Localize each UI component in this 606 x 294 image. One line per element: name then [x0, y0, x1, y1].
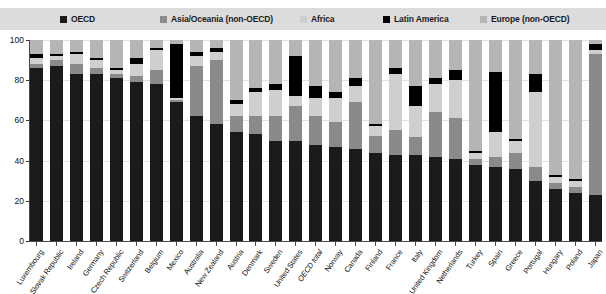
y-tick-label: 60 — [15, 115, 24, 125]
bar-segment — [449, 118, 462, 158]
bar-greece[interactable] — [509, 40, 522, 241]
bar-segment — [289, 96, 302, 106]
bar-segment — [70, 54, 83, 64]
bar-segment — [409, 106, 422, 136]
bar-segment — [329, 147, 342, 241]
bar-segment — [249, 116, 262, 134]
bar-segment — [289, 106, 302, 140]
bar-netherlands[interactable] — [449, 40, 462, 241]
bar-australia[interactable] — [190, 40, 203, 241]
x-tick-mark — [150, 242, 163, 246]
x-label-slot: Japan — [589, 247, 602, 294]
bar-segment — [309, 116, 322, 144]
y-tick-label: 100 — [10, 35, 24, 45]
bar-belgium[interactable] — [150, 40, 163, 241]
bar-segment — [190, 40, 203, 52]
bar-segment — [429, 112, 442, 156]
bar-ireland[interactable] — [70, 40, 83, 241]
bar-mexico[interactable] — [170, 40, 183, 241]
bar-segment — [150, 40, 163, 48]
bar-segment — [449, 70, 462, 80]
bar-segment — [349, 86, 362, 102]
legend-label: Latin America — [394, 14, 449, 24]
x-tick-mark — [110, 242, 123, 246]
bar-segment — [369, 40, 382, 124]
bar-segment — [130, 40, 143, 58]
plot-area — [30, 40, 602, 241]
bar-segment — [269, 40, 282, 84]
x-tick-mark — [210, 242, 223, 246]
x-axis-label: Norway — [323, 248, 345, 274]
bar-germany[interactable] — [90, 40, 103, 241]
x-label-slot: Belgium — [150, 247, 163, 294]
bar-segment — [150, 84, 163, 241]
bar-segment — [369, 126, 382, 136]
bar-france[interactable] — [389, 40, 402, 241]
bar-hungary[interactable] — [549, 40, 562, 241]
x-tick-mark — [449, 242, 462, 246]
x-tick-mark — [329, 242, 342, 246]
bar-italy[interactable] — [409, 40, 422, 241]
bar-turkey[interactable] — [469, 40, 482, 241]
bar-segment — [509, 169, 522, 241]
bar-sweden[interactable] — [269, 40, 282, 241]
bar-united-states[interactable] — [289, 40, 302, 241]
bar-segment — [30, 68, 43, 241]
bar-canada[interactable] — [349, 40, 362, 241]
bar-portugal[interactable] — [529, 40, 542, 241]
bar-segment — [289, 141, 302, 242]
x-tick-mark — [549, 242, 562, 246]
x-label-slot: Slovak Republic — [50, 247, 63, 294]
x-label-slot: Poland — [569, 247, 582, 294]
bar-segment — [489, 157, 502, 167]
bar-segment — [489, 132, 502, 156]
bar-norway[interactable] — [329, 40, 342, 241]
x-tick-mark — [429, 242, 442, 246]
bar-new-zealand[interactable] — [210, 40, 223, 241]
bar-segment — [409, 86, 422, 106]
legend-label: OECD — [71, 14, 95, 24]
x-axis-ticks — [30, 242, 602, 246]
bar-austria[interactable] — [230, 40, 243, 241]
bar-segment — [549, 189, 562, 241]
bar-segment — [230, 40, 243, 100]
bar-segment — [429, 157, 442, 241]
x-tick-mark — [289, 242, 302, 246]
bar-oecd-total[interactable] — [309, 40, 322, 241]
x-axis-label: Japan — [585, 248, 604, 270]
x-tick-mark — [389, 242, 402, 246]
bar-poland[interactable] — [569, 40, 582, 241]
legend-item-2: Africa — [300, 14, 335, 24]
x-tick-mark — [489, 242, 502, 246]
bar-segment — [409, 40, 422, 86]
bar-segment — [269, 141, 282, 242]
bar-segment — [269, 116, 282, 140]
bar-denmark[interactable] — [249, 40, 262, 241]
bar-segment — [509, 141, 522, 153]
bar-segment — [529, 167, 542, 181]
bar-series-group — [30, 40, 602, 241]
bar-luxembourg[interactable] — [30, 40, 43, 241]
x-tick-mark — [230, 242, 243, 246]
bar-segment — [130, 82, 143, 241]
bar-slovak-republic[interactable] — [50, 40, 63, 241]
bar-segment — [569, 40, 582, 179]
bar-spain[interactable] — [489, 40, 502, 241]
y-tick-label: 40 — [15, 156, 24, 166]
bar-segment — [349, 40, 362, 78]
x-axis-label: Spain — [486, 248, 504, 268]
bar-segment — [110, 40, 123, 68]
legend-item-3: Latin America — [383, 14, 449, 24]
x-tick-mark — [30, 242, 43, 246]
bar-finland[interactable] — [369, 40, 382, 241]
bar-segment — [529, 40, 542, 74]
bar-segment — [529, 181, 542, 241]
bar-segment — [429, 84, 442, 112]
chart-legend: OECDAsia/Oceania (non-OECD)AfricaLatin A… — [0, 8, 606, 30]
bar-switzerland[interactable] — [130, 40, 143, 241]
y-axis: 020406080100 — [0, 40, 30, 241]
bar-united-kingdom[interactable] — [429, 40, 442, 241]
legend-swatch-icon — [300, 16, 307, 23]
bar-czech-republic[interactable] — [110, 40, 123, 241]
bar-japan[interactable] — [589, 40, 602, 241]
